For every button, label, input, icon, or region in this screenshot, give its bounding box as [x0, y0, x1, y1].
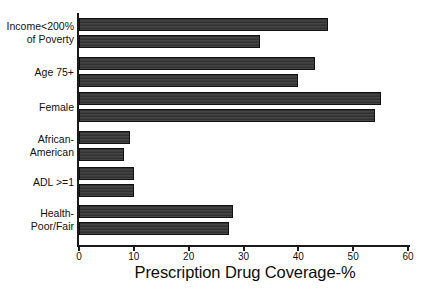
bar: [79, 205, 233, 218]
bar-fill: [79, 35, 260, 48]
y-axis-label-line: African-: [0, 133, 74, 146]
y-axis-label-female: Female: [0, 101, 74, 114]
bar-fill: [79, 205, 233, 218]
bar-fill: [79, 18, 328, 31]
y-axis-label-line: Poor/Fair: [0, 220, 74, 233]
bar-fill: [79, 222, 229, 235]
y-axis-label-line: Female: [0, 101, 74, 114]
y-axis-label-income-200-of-poverty: Income<200%of Poverty: [0, 20, 74, 45]
y-axis-label-adl-1: ADL >=1: [0, 176, 74, 189]
bar: [79, 18, 328, 31]
y-axis-label-line: Health-: [0, 207, 74, 220]
bar-fill: [79, 74, 298, 87]
y-axis-label-line: American: [0, 146, 74, 159]
bar: [79, 35, 260, 48]
y-axis-label-age-75: Age 75+: [0, 66, 74, 79]
x-tick-label-10: 10: [119, 251, 149, 262]
bar: [79, 131, 130, 144]
bar-fill: [79, 184, 134, 197]
bar: [79, 57, 315, 70]
bar-chart: 0102030405060 Income<200%of PovertyAge 7…: [0, 0, 425, 291]
bar: [79, 92, 381, 105]
bar: [79, 222, 229, 235]
x-tick-label-20: 20: [174, 251, 204, 262]
bar: [79, 148, 124, 161]
bar-fill: [79, 148, 124, 161]
y-axis-label-line: Income<200%: [0, 20, 74, 33]
y-axis-label-line: ADL >=1: [0, 176, 74, 189]
bar-fill: [79, 131, 130, 144]
bar: [79, 167, 134, 180]
bar: [79, 184, 134, 197]
x-axis-title: Prescription Drug Coverage-%: [79, 263, 411, 282]
bar-fill: [79, 109, 375, 122]
bar: [79, 74, 298, 87]
bar-fill: [79, 57, 315, 70]
bar-fill: [79, 92, 381, 105]
x-tick-label-50: 50: [338, 251, 368, 262]
x-tick-label-40: 40: [283, 251, 313, 262]
bar: [79, 109, 375, 122]
y-axis-label-line: Age 75+: [0, 66, 74, 79]
y-axis-label-health-poor-fair: Health-Poor/Fair: [0, 207, 74, 232]
y-axis-label-line: of Poverty: [0, 33, 74, 46]
x-tick-label-30: 30: [229, 251, 259, 262]
x-tick-label-60: 60: [393, 251, 423, 262]
bar-fill: [79, 167, 134, 180]
y-axis-label-african-american: African-American: [0, 133, 74, 158]
x-tick-label-0: 0: [64, 251, 94, 262]
